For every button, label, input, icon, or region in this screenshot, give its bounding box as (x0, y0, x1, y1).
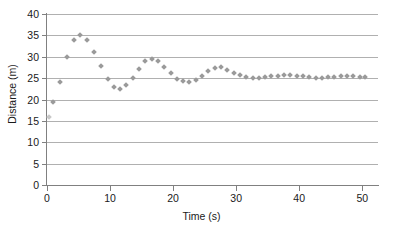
gridline-y-10 (47, 142, 378, 143)
data-point (288, 72, 294, 78)
data-point (111, 84, 117, 90)
y-tick-label-5: 5 (9, 159, 39, 170)
x-tick-10 (110, 186, 111, 191)
data-point (224, 67, 230, 73)
data-point (149, 56, 155, 62)
y-tick-20 (42, 100, 47, 101)
y-tick-10 (42, 142, 47, 143)
y-tick-label-0: 0 (9, 180, 39, 191)
data-point (77, 32, 83, 38)
data-point (313, 75, 319, 81)
data-point (231, 70, 237, 76)
y-axis-title: Distance (m) (6, 44, 18, 144)
x-tick-label-10: 10 (90, 193, 130, 204)
data-point (155, 58, 161, 64)
data-point (212, 65, 218, 71)
data-point (46, 114, 52, 120)
data-point (85, 37, 91, 43)
scatter-chart-figure: 0510152025303540 01020304050 Distance (m… (0, 0, 403, 234)
data-point (206, 68, 212, 74)
data-point (57, 80, 63, 86)
data-point (362, 74, 368, 80)
x-tick-label-20: 20 (153, 193, 193, 204)
data-point (117, 86, 123, 92)
y-tick-label-40: 40 (9, 9, 39, 20)
data-point (105, 76, 111, 82)
y-tick-15 (42, 121, 47, 122)
y-tick-30 (42, 57, 47, 58)
data-point (98, 63, 104, 69)
data-point (91, 49, 97, 55)
gridline-y-20 (47, 100, 378, 101)
x-tick-label-30: 30 (216, 193, 256, 204)
data-point (250, 75, 256, 81)
data-point (124, 83, 130, 89)
data-point (319, 75, 325, 81)
x-axis-title: Time (s) (0, 210, 403, 222)
x-tick-40 (299, 186, 300, 191)
y-tick-label-35: 35 (9, 30, 39, 41)
data-point (256, 75, 262, 81)
x-tick-label-50: 50 (342, 193, 382, 204)
gridline-y-35 (47, 35, 378, 36)
data-point (325, 74, 331, 80)
gridline-y-30 (47, 57, 378, 58)
y-tick-25 (42, 78, 47, 79)
gridline-y-40 (47, 14, 378, 15)
x-tick-label-40: 40 (279, 193, 319, 204)
data-point (143, 58, 149, 64)
data-point (130, 75, 136, 81)
x-tick-50 (362, 186, 363, 191)
y-tick-40 (42, 14, 47, 15)
x-tick-30 (236, 186, 237, 191)
gridline-y-5 (47, 164, 378, 165)
data-point (71, 37, 77, 43)
data-point (64, 54, 70, 60)
x-axis-line (46, 185, 379, 186)
data-point (187, 79, 193, 85)
data-point (136, 66, 142, 72)
y-tick-35 (42, 35, 47, 36)
y-tick-5 (42, 164, 47, 165)
x-tick-label-0: 0 (27, 193, 67, 204)
data-point (281, 72, 287, 78)
data-point (161, 64, 167, 70)
data-point (168, 71, 174, 77)
x-tick-20 (173, 186, 174, 191)
gridline-y-15 (47, 121, 378, 122)
data-point (237, 72, 243, 78)
plot-area (47, 14, 378, 185)
x-tick-0 (47, 186, 48, 191)
data-point (306, 74, 312, 80)
